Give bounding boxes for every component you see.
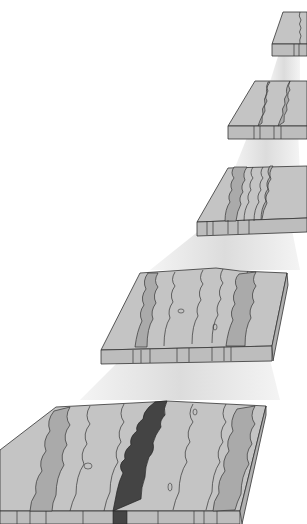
crust-block-5 — [0, 401, 266, 524]
crust-block-1 — [272, 12, 307, 56]
crust-block-2 — [228, 81, 307, 139]
crust-block-3 — [197, 166, 307, 236]
seafloor-spreading-diagram — [0, 0, 307, 524]
crust-block-4 — [101, 268, 288, 364]
